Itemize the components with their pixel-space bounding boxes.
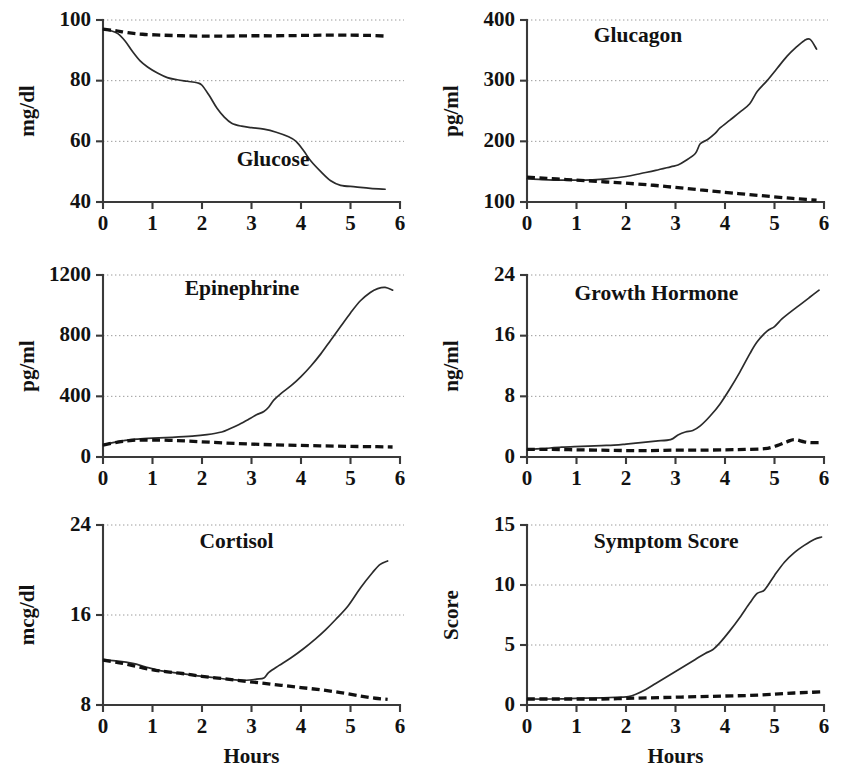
- x-tick-label: 6: [819, 211, 830, 235]
- y-tick-label: 100: [60, 7, 92, 31]
- y-axis-title: ng/ml: [439, 340, 463, 392]
- x-tick-label: 4: [720, 714, 731, 738]
- y-axis-title: pg/ml: [15, 340, 39, 392]
- panel-title: Growth Hormone: [575, 281, 739, 305]
- series-line-solid: [527, 290, 819, 449]
- chart-canvas: 1002003004000123456pg/mlGlucagon: [424, 0, 848, 250]
- x-axis-title: Hours: [223, 744, 279, 768]
- x-tick-label: 6: [395, 211, 406, 235]
- panel-title: Cortisol: [200, 529, 274, 553]
- y-axis-title: pg/ml: [439, 85, 463, 137]
- x-tick-label: 2: [197, 714, 208, 738]
- x-tick-label: 0: [98, 714, 109, 738]
- y-tick-label: 15: [494, 512, 515, 536]
- x-tick-label: 3: [670, 211, 681, 235]
- x-tick-label: 6: [395, 466, 406, 490]
- x-tick-label: 2: [621, 211, 632, 235]
- y-tick-label: 24: [494, 262, 516, 286]
- series-line-solid: [527, 537, 822, 699]
- y-tick-label: 300: [484, 67, 516, 91]
- chart-panel-growth-hormone: 0816240123456ng/mlGrowth Hormone: [424, 255, 848, 505]
- x-tick-label: 2: [197, 211, 208, 235]
- y-axis-title: Score: [439, 590, 463, 640]
- x-tick-label: 3: [670, 466, 681, 490]
- x-tick-label: 6: [819, 466, 830, 490]
- chart-canvas: 0816240123456ng/mlGrowth Hormone: [424, 255, 848, 505]
- y-tick-label: 400: [60, 383, 92, 407]
- multi-panel-figure: 4060801000123456mg/dlGlucose100200300400…: [0, 0, 848, 780]
- x-tick-label: 5: [769, 466, 780, 490]
- y-tick-label: 0: [81, 444, 92, 468]
- chart-panel-glucagon: 1002003004000123456pg/mlGlucagon: [424, 0, 848, 250]
- series-line-dashed: [103, 440, 393, 447]
- x-tick-label: 3: [246, 466, 257, 490]
- y-tick-label: 80: [70, 67, 91, 91]
- chart-panel-symptom-score: 0510150123456ScoreSymptom ScoreHours: [424, 505, 848, 780]
- y-tick-label: 16: [70, 602, 91, 626]
- x-tick-label: 3: [246, 714, 257, 738]
- y-tick-label: 8: [505, 383, 516, 407]
- panel-title: Epinephrine: [185, 276, 300, 300]
- chart-canvas: 816240123456mcg/dlCortisolHours: [0, 505, 424, 780]
- x-tick-label: 4: [296, 466, 307, 490]
- chart-panel-epinephrine: 040080012000123456pg/mlEpinephrine: [0, 255, 424, 505]
- y-tick-label: 0: [505, 692, 516, 716]
- x-tick-label: 6: [395, 714, 406, 738]
- x-tick-label: 0: [522, 466, 533, 490]
- x-tick-label: 0: [522, 714, 533, 738]
- x-tick-label: 6: [819, 714, 830, 738]
- x-tick-label: 1: [571, 714, 582, 738]
- x-tick-label: 5: [769, 211, 780, 235]
- x-tick-label: 1: [571, 211, 582, 235]
- chart-canvas: 040080012000123456pg/mlEpinephrine: [0, 255, 424, 505]
- series-line-dashed: [103, 660, 388, 699]
- x-tick-label: 5: [345, 714, 356, 738]
- x-tick-label: 0: [98, 211, 109, 235]
- y-tick-label: 1200: [49, 262, 91, 286]
- y-axis-title: mg/dl: [15, 85, 39, 137]
- x-tick-label: 5: [345, 466, 356, 490]
- series-line-dashed: [103, 29, 385, 36]
- x-tick-label: 1: [147, 466, 158, 490]
- y-tick-label: 0: [505, 444, 516, 468]
- x-tick-label: 0: [522, 211, 533, 235]
- x-tick-label: 4: [296, 714, 307, 738]
- x-tick-label: 4: [296, 211, 307, 235]
- series-line-dashed: [527, 440, 819, 451]
- x-tick-label: 5: [345, 211, 356, 235]
- x-tick-label: 4: [720, 211, 731, 235]
- x-tick-label: 1: [571, 466, 582, 490]
- x-tick-label: 1: [147, 714, 158, 738]
- y-tick-label: 40: [70, 189, 91, 213]
- series-line-solid: [103, 287, 393, 445]
- y-tick-label: 8: [81, 692, 92, 716]
- x-tick-label: 1: [147, 211, 158, 235]
- x-tick-label: 0: [98, 466, 109, 490]
- y-tick-label: 100: [484, 189, 516, 213]
- x-tick-label: 2: [621, 714, 632, 738]
- x-axis-title: Hours: [647, 744, 703, 768]
- y-tick-label: 800: [60, 322, 92, 346]
- y-tick-label: 60: [70, 128, 91, 152]
- y-tick-label: 400: [484, 7, 516, 31]
- x-tick-label: 4: [720, 466, 731, 490]
- x-tick-label: 3: [246, 211, 257, 235]
- y-axis-title: mcg/dl: [15, 585, 39, 646]
- chart-panel-cortisol: 816240123456mcg/dlCortisolHours: [0, 505, 424, 780]
- series-line-solid: [103, 561, 388, 680]
- panel-title: Glucose: [237, 147, 310, 171]
- y-tick-label: 10: [494, 572, 515, 596]
- y-tick-label: 200: [484, 128, 516, 152]
- y-tick-label: 5: [505, 632, 516, 656]
- y-tick-label: 16: [494, 322, 515, 346]
- x-tick-label: 2: [621, 466, 632, 490]
- series-line-dashed: [527, 692, 822, 699]
- panel-title: Symptom Score: [594, 529, 739, 553]
- series-line-dashed: [527, 177, 817, 200]
- chart-canvas: 0510150123456ScoreSymptom ScoreHours: [424, 505, 848, 780]
- x-tick-label: 2: [197, 466, 208, 490]
- x-tick-label: 3: [670, 714, 681, 738]
- chart-canvas: 4060801000123456mg/dlGlucose: [0, 0, 424, 250]
- chart-panel-glucose: 4060801000123456mg/dlGlucose: [0, 0, 424, 250]
- x-tick-label: 5: [769, 714, 780, 738]
